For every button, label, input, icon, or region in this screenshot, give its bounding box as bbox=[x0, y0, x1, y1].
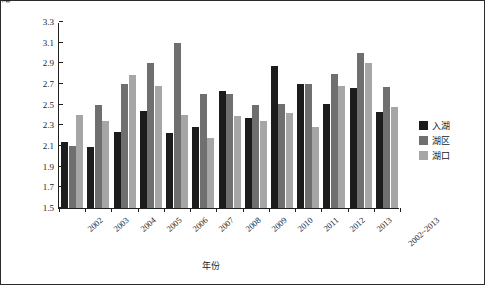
bar[interactable] bbox=[234, 116, 241, 208]
bar[interactable] bbox=[338, 86, 345, 208]
bar[interactable] bbox=[121, 84, 128, 208]
legend-swatch bbox=[419, 136, 428, 145]
x-tick-mark bbox=[400, 208, 401, 212]
bar[interactable] bbox=[278, 104, 285, 208]
bar[interactable] bbox=[114, 132, 121, 208]
x-tick-mark bbox=[190, 208, 191, 212]
bar[interactable] bbox=[181, 115, 188, 208]
x-tick-label: 2003 bbox=[112, 215, 131, 234]
x-tick-label: 2002~2013 bbox=[406, 215, 441, 248]
chart-figure: 高锰酸盐指数浓度(mg/L) 3.33.12.92.72.52.32.11.91… bbox=[0, 0, 485, 285]
x-tick-mark bbox=[164, 208, 165, 212]
x-tick-label: 2004 bbox=[138, 215, 157, 234]
bar[interactable] bbox=[102, 121, 109, 208]
legend-swatch bbox=[419, 121, 428, 130]
bar[interactable] bbox=[391, 107, 398, 208]
bar[interactable] bbox=[69, 146, 76, 208]
bar[interactable] bbox=[61, 142, 68, 208]
x-tick-label: 2009 bbox=[269, 215, 288, 234]
legend-item[interactable]: 入湖 bbox=[419, 118, 481, 133]
legend-item[interactable]: 湖口 bbox=[419, 148, 481, 163]
x-tick-mark bbox=[85, 208, 86, 212]
bar-group bbox=[114, 23, 136, 208]
x-tick-label: 2010 bbox=[295, 215, 314, 234]
y-axis-title: 高锰酸盐指数浓度(mg/L) bbox=[0, 0, 11, 35]
x-tick-mark bbox=[216, 208, 217, 212]
x-tick-label: 2005 bbox=[164, 215, 183, 234]
x-tick-mark bbox=[348, 208, 349, 212]
bar[interactable] bbox=[207, 138, 214, 208]
bar[interactable] bbox=[129, 75, 136, 208]
x-tick-label: 2011 bbox=[321, 215, 340, 234]
bar[interactable] bbox=[305, 84, 312, 208]
bar[interactable] bbox=[376, 112, 383, 208]
bar[interactable] bbox=[297, 84, 304, 208]
bar-group bbox=[245, 23, 267, 208]
y-tick-mark bbox=[59, 21, 63, 22]
bar-group bbox=[376, 23, 398, 208]
bar[interactable] bbox=[166, 133, 173, 208]
x-tick-mark bbox=[138, 208, 139, 212]
bar-group bbox=[192, 23, 214, 208]
x-tick-label: 2002 bbox=[85, 215, 104, 234]
bar-group bbox=[140, 23, 162, 208]
x-tick-label: 2012 bbox=[348, 215, 367, 234]
x-tick-label: 2006 bbox=[190, 215, 209, 234]
bar[interactable] bbox=[365, 63, 372, 208]
legend-label: 入湖 bbox=[432, 119, 450, 132]
bar-group bbox=[323, 23, 345, 208]
x-tick-label: 2008 bbox=[243, 215, 262, 234]
bar[interactable] bbox=[286, 113, 293, 208]
bar[interactable] bbox=[323, 104, 330, 208]
bar[interactable] bbox=[219, 91, 226, 208]
bar[interactable] bbox=[331, 74, 338, 208]
bar-group bbox=[350, 23, 372, 208]
x-tick-mark bbox=[295, 208, 296, 212]
bar[interactable] bbox=[87, 147, 94, 208]
bar[interactable] bbox=[147, 63, 154, 208]
bar[interactable] bbox=[245, 118, 252, 208]
x-tick-mark bbox=[269, 208, 270, 212]
bar[interactable] bbox=[200, 94, 207, 208]
bar-group bbox=[87, 23, 109, 208]
bar-group bbox=[271, 23, 293, 208]
x-tick-mark bbox=[243, 208, 244, 212]
bar[interactable] bbox=[155, 86, 162, 208]
bar[interactable] bbox=[383, 87, 390, 208]
x-tick-mark bbox=[111, 208, 112, 212]
bar-group bbox=[297, 23, 319, 208]
bar[interactable] bbox=[95, 105, 102, 208]
bar[interactable] bbox=[357, 53, 364, 208]
bar[interactable] bbox=[140, 111, 147, 208]
bar[interactable] bbox=[260, 121, 267, 208]
bar[interactable] bbox=[192, 127, 199, 208]
x-tick-mark bbox=[59, 208, 60, 212]
legend-swatch bbox=[419, 151, 428, 160]
x-tick-label: 2013 bbox=[374, 215, 393, 234]
bar-group bbox=[61, 23, 83, 208]
x-tick-label: 2007 bbox=[217, 215, 236, 234]
bar[interactable] bbox=[312, 127, 319, 208]
x-tick-mark bbox=[321, 208, 322, 212]
bar[interactable] bbox=[226, 94, 233, 208]
chart-legend: 入湖湖区湖口 bbox=[419, 118, 481, 163]
legend-item[interactable]: 湖区 bbox=[419, 133, 481, 148]
bar[interactable] bbox=[174, 43, 181, 208]
x-axis-title: 年份 bbox=[1, 259, 421, 272]
plot-area: 3.33.12.92.72.52.32.11.91.71.5 200220032… bbox=[58, 23, 399, 209]
bar[interactable] bbox=[271, 66, 278, 208]
bar[interactable] bbox=[252, 105, 259, 208]
bar[interactable] bbox=[350, 88, 357, 208]
x-tick-mark bbox=[374, 208, 375, 212]
legend-label: 湖区 bbox=[432, 134, 450, 147]
bar-group bbox=[219, 23, 241, 208]
bar-group bbox=[166, 23, 188, 208]
bar[interactable] bbox=[76, 115, 83, 208]
legend-label: 湖口 bbox=[432, 149, 450, 162]
